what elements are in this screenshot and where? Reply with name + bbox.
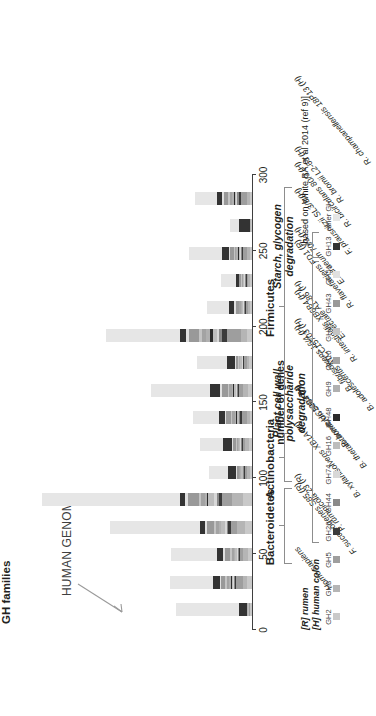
bar-f-succinogenes-s85-r [170,576,253,589]
bar-segment-gh5 [236,576,243,589]
habitat-key: [R] rumen [H] human colon [300,559,322,630]
legend-item-gh11[interactable]: GH11 [322,319,340,345]
value-axis-tick [252,250,256,251]
bar-segment-other-gh [189,247,222,260]
bar-segment-other-gh [195,192,217,205]
bar-segment-other-gh [170,576,213,589]
legend-item-gh43[interactable]: GH43 [322,291,340,317]
value-axis-tick [252,553,256,554]
legend-label: GH74 [324,462,333,488]
legend-item-gh2[interactable]: GH2 [322,604,340,630]
legend-item-other-gh[interactable]: other GH [322,205,340,231]
legend-group-bracket [312,233,319,259]
legend-label: GH48 [324,405,333,431]
legend-swatch [333,614,340,621]
bar-segment-gh3 [237,521,245,534]
legend-group-title: Plant cell wallpolysaccharidedegradation [272,328,307,478]
legend-item-gh9[interactable]: GH9 [322,376,340,402]
legend-label: GH13 [324,234,333,260]
bar-b-adolescentis-atcc15703-h [200,439,252,452]
habitat-key-human: [H] human colon [311,559,321,630]
bar-e-siraeum-70-3-h [207,301,252,314]
legend-item-gh16[interactable]: GH16 [322,433,340,459]
legend-label: GH26 [324,519,333,545]
bar-segment-other-gh [106,329,180,342]
bar-segment-gh43 [207,521,214,534]
legend-swatch [333,300,340,307]
legend-swatch [333,500,340,507]
bar-segment-gh13 [239,603,247,616]
legend-item-gh74[interactable]: GH74 [322,462,340,488]
bar-homo-sapiens [176,603,252,616]
legend-swatch [333,329,340,336]
bar-segment-gh13 [239,219,249,232]
legend-item-gh5[interactable]: GH5 [322,547,340,573]
legend-swatch [333,357,340,364]
value-axis-tick [252,326,256,327]
value-axis-tick [252,174,256,175]
legend-swatch [333,386,340,393]
bar-f-prausnitzii-sl3-3-h [221,274,252,287]
value-axis-tick [252,402,256,403]
legend-swatch [333,471,340,478]
bar-r-flavefaciens-fd1-r [106,329,252,342]
bar-segment-other-gh [200,439,223,452]
bar-segment-other-gh [197,356,227,369]
bar-b-breve-uc2003-h [209,466,252,479]
value-axis-line [252,175,253,630]
source-citation: [based on White BA et al 2014 (ref 9)] [300,96,310,246]
bar-p-ruminicola-23-r [171,548,252,561]
bar-segment-gh2 [245,521,252,534]
bar-segment-gh13 [213,576,220,589]
bar-r-intestinalis-xb6b4-h [151,384,252,397]
bar-b-thetaiotaomicron-5484-h [42,493,252,506]
legend-label: GH16 [324,433,333,459]
bar-r-champanellensis-18p13-h [195,192,252,205]
legend-item-gh26[interactable]: GH26 [322,519,340,545]
bar-segment-gh13 [210,384,219,397]
value-axis-tick-label: 300 [258,155,269,195]
value-axis-tick [252,477,256,478]
legend-label: GH2 [324,604,333,630]
taxon-group-label: Bacteroidetes [264,489,276,565]
legend-swatch [333,528,340,535]
legend-label: GH43 [324,291,333,317]
legend-label: GH3 [324,576,333,602]
bar-b-xylanisolvens-xb1a-h [110,521,252,534]
plot-area [16,175,252,630]
bar-segment-gh43 [189,329,198,342]
bar-segment-gh5 [222,493,231,506]
legend-label: GH10 [324,348,333,374]
bar-segment-gh3 [232,493,243,506]
legend-item-gh44[interactable]: GH44 [322,490,340,516]
legend-item-gh10[interactable]: GH10 [322,348,340,374]
legend-swatch [333,243,340,250]
legend-item-gh3[interactable]: GH3 [322,576,340,602]
legend-label: GH9 [324,376,333,402]
bar-segment-other-gh [230,219,239,232]
legend-label: GH44 [324,490,333,516]
bar-b-fibrisolvens-16-4-h [193,411,252,424]
bar-segment-other-gh [221,274,235,287]
bar-segment-gh13 [228,466,236,479]
bar-segment-gh13 [223,439,232,452]
legend-item-gh51[interactable]: GH51 [322,262,340,288]
legend-label: other GH [324,205,333,231]
legend-swatch [333,557,340,564]
legend-item-gh48[interactable]: GH48 [322,405,340,431]
bar-r-bromii-l2-63-h [230,219,252,232]
value-axis-tick-label: 0 [258,610,269,650]
bar-segment-other-gh [209,466,229,479]
legend-swatch [333,443,340,450]
legend-item-gh13[interactable]: GH13 [322,234,340,260]
chart-title: GH families [0,561,12,624]
legend-label: GH5 [324,547,333,573]
bar-segment-other-gh [110,521,200,534]
legend-swatch [333,585,340,592]
habitat-key-rumen: [R] rumen [300,588,310,631]
bar-segment-gh43 [188,493,198,506]
legend-label: GH11 [324,319,333,345]
bar-segment-other-gh [151,384,210,397]
